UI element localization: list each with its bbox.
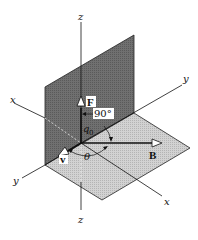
field-label: B: [149, 149, 157, 161]
velocity-label: v: [60, 153, 66, 165]
force-label: F: [87, 96, 94, 108]
z-axis-label-top: z: [77, 11, 84, 22]
x-axis-back: [14, 103, 45, 118]
y-axis-label-left: y: [12, 175, 19, 186]
q0-subscript: 0: [89, 129, 93, 137]
y-axis-label-right: y: [182, 73, 189, 84]
y-axis-front-ext: [22, 165, 45, 178]
z-axis-label-bottom: z: [77, 214, 84, 225]
x-axis-label-right: x: [164, 196, 170, 207]
vector-diagram: z z x x y y F v B 90° q 0 θ: [0, 0, 198, 240]
right-angle-label: 90°: [94, 108, 112, 119]
diagram-canvas: z z x x y y F v B 90° q 0 θ: [0, 0, 198, 240]
x-axis-label-left: x: [10, 94, 16, 105]
theta-label: θ: [84, 151, 90, 162]
